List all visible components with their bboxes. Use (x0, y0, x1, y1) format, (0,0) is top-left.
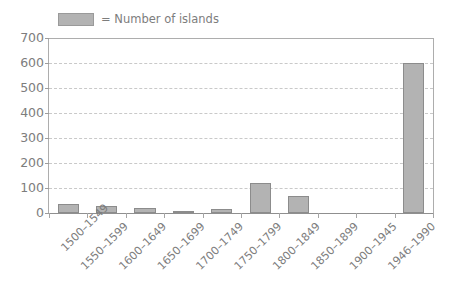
bar (403, 63, 424, 213)
y-axis-tick-label: 400 (0, 107, 44, 120)
bar-slot (164, 38, 202, 213)
bar-slot (318, 38, 356, 213)
plot-area (48, 38, 434, 214)
y-axis-tick-label: 300 (0, 132, 44, 145)
bar-slot (49, 38, 87, 213)
y-axis-tick-label: 0 (0, 207, 44, 220)
bar-series (49, 38, 433, 213)
y-axis-tick-label: 200 (0, 157, 44, 170)
bar-slot (87, 38, 125, 213)
bar-slot (395, 38, 433, 213)
x-axis-labels: 1500–15491550–15991600–16491650–16991700… (48, 214, 432, 282)
bar-slot (126, 38, 164, 213)
x-axis-tick-label: 1500–1549 (58, 220, 92, 254)
bar-slot (203, 38, 241, 213)
bar-slot (279, 38, 317, 213)
bar (58, 204, 79, 213)
bar-chart: = Number of islands 70060050040030020010… (0, 0, 450, 282)
y-axis-tick-label: 100 (0, 182, 44, 195)
bar (250, 183, 271, 213)
y-axis-tick-label: 600 (0, 57, 44, 70)
legend-label: = Number of islands (101, 13, 219, 26)
y-axis-tick-label: 700 (0, 32, 44, 45)
x-axis-tick (433, 213, 434, 218)
y-axis-tick-label: 500 (0, 82, 44, 95)
legend-swatch-number-of-islands (58, 13, 94, 26)
bar-slot (356, 38, 394, 213)
y-axis-labels: 7006005004003002001000 (0, 38, 44, 213)
chart-legend: = Number of islands (58, 12, 219, 27)
bar-slot (241, 38, 279, 213)
bar (288, 196, 309, 213)
